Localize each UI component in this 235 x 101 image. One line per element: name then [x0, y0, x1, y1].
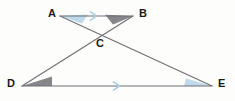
vertex-label-B: B — [139, 8, 147, 19]
vertex-label-A: A — [48, 8, 56, 19]
vertex-label-E: E — [218, 78, 225, 89]
geometry-figure: A B C D E — [0, 0, 235, 101]
vertex-label-C: C — [96, 38, 104, 49]
figure-canvas — [0, 0, 235, 101]
vertex-label-D: D — [7, 78, 15, 89]
